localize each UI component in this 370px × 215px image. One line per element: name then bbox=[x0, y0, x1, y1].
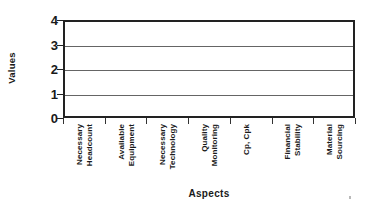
x-axis-category-label: MaterialSourcing bbox=[325, 124, 343, 186]
y-axis-tick-label: 0 bbox=[38, 112, 58, 125]
x-axis-category-label: NecessaryHeadcount bbox=[75, 124, 93, 186]
x-axis-category-text: NecessaryHeadcount bbox=[75, 124, 95, 186]
x-axis-category-line: Material bbox=[325, 124, 335, 186]
x-axis-category-text: MaterialSourcing bbox=[325, 124, 345, 186]
x-axis-tick-mark bbox=[355, 118, 356, 124]
gridline bbox=[65, 46, 353, 47]
y-axis-tick-label: 3 bbox=[38, 38, 58, 51]
plot-area bbox=[63, 20, 355, 118]
scan-artifact-speck bbox=[349, 196, 351, 199]
x-axis-title: Aspects bbox=[63, 188, 355, 199]
x-axis-category-label: QualityMonitoring bbox=[200, 124, 218, 186]
x-axis-category-line: Headcount bbox=[84, 124, 94, 186]
x-axis-category-line: Quality bbox=[200, 124, 210, 186]
y-axis-tick-mark bbox=[57, 69, 64, 70]
x-axis-category-text: Cp, Cpk bbox=[242, 124, 252, 186]
x-axis-category-text: FinancialStability bbox=[283, 124, 303, 186]
y-axis-tick-mark bbox=[57, 20, 64, 21]
y-axis-tick-mark bbox=[57, 94, 64, 95]
x-axis-tick-mark bbox=[146, 118, 147, 124]
x-axis-category-line: Equipment bbox=[126, 124, 136, 186]
x-axis-category-line: Technology bbox=[168, 124, 178, 186]
x-axis-tick-mark bbox=[188, 118, 189, 124]
x-axis-tick-mark bbox=[105, 118, 106, 124]
x-axis-category-line: Necessary bbox=[75, 124, 85, 186]
x-axis-category-line: Stability bbox=[293, 124, 303, 186]
y-axis-tick-label: 2 bbox=[38, 63, 58, 76]
y-axis-title: Values bbox=[6, 38, 17, 98]
gridline bbox=[65, 95, 353, 96]
y-axis-tick-mark bbox=[57, 45, 64, 46]
x-axis-category-labels: NecessaryHeadcountAvailableEquipmentNece… bbox=[63, 124, 355, 186]
x-axis-category-line: Sourcing bbox=[335, 124, 345, 186]
gridline bbox=[65, 70, 353, 71]
x-axis-category-label: FinancialStability bbox=[283, 124, 301, 186]
x-axis-category-label: AvailableEquipment bbox=[117, 124, 135, 186]
x-axis-category-text: NecessaryTechnology bbox=[158, 124, 178, 186]
y-axis-tick-label: 1 bbox=[38, 87, 58, 100]
x-axis-category-text: QualityMonitoring bbox=[200, 124, 220, 186]
bar-chart-figure: Values 01234 NecessaryHeadcountAvailable… bbox=[0, 0, 370, 215]
x-axis-category-label: Cp, Cpk bbox=[242, 124, 260, 186]
x-axis-category-line: Cp, Cpk bbox=[242, 124, 252, 186]
x-axis-tick-mark bbox=[313, 118, 314, 124]
x-axis-category-line: Necessary bbox=[158, 124, 168, 186]
y-axis-tick-label: 4 bbox=[38, 14, 58, 27]
x-axis-tick-mark bbox=[272, 118, 273, 124]
y-axis-tick-labels: 01234 bbox=[38, 12, 58, 124]
x-axis-tick-mark bbox=[230, 118, 231, 124]
x-axis-category-line: Available bbox=[117, 124, 127, 186]
x-axis-category-line: Monitoring bbox=[210, 124, 220, 186]
x-axis-category-line: Financial bbox=[283, 124, 293, 186]
x-axis-category-text: AvailableEquipment bbox=[117, 124, 137, 186]
x-axis-tick-mark bbox=[63, 118, 64, 124]
x-axis-category-label: NecessaryTechnology bbox=[158, 124, 176, 186]
